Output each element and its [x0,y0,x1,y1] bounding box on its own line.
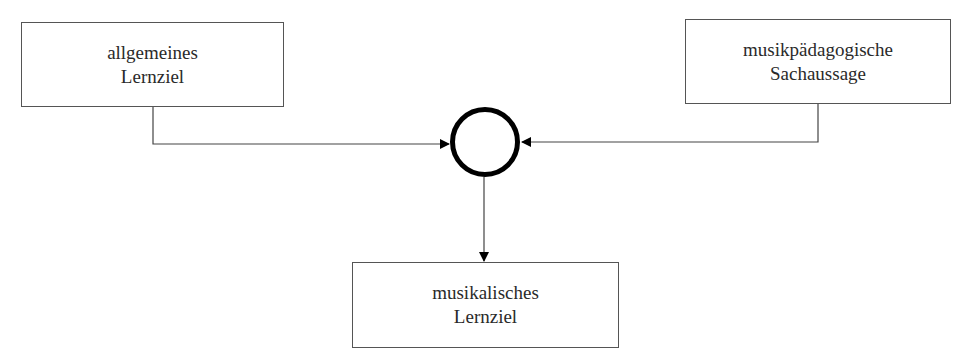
node-musical-learning-goal: musikalisches Lernziel [352,262,619,348]
node-general-learning-goal: allgemeines Lernziel [21,22,284,107]
node-music-pedagogical-statement: musikpädagogische Sachaussage [685,19,951,104]
node-label-line2: Sachaussage [770,62,866,86]
node-label-line2: Lernziel [454,305,517,329]
edge-statement-to-junction [522,104,818,142]
node-label-line1: allgemeines [107,41,198,65]
node-label-line1: musikpädagogische [743,38,893,62]
node-label-line1: musikalisches [432,281,539,305]
junction-circle [453,110,518,175]
node-label-line2: Lernziel [121,65,184,89]
edge-general-to-junction [153,107,449,144]
